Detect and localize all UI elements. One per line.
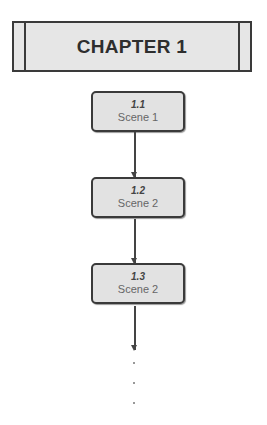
scene-node-1: 1.1 Scene 1 <box>91 91 185 132</box>
arrow-2-to-3 <box>134 219 136 263</box>
arrow-3-to-next <box>134 306 136 350</box>
scene-node-2: 1.2 Scene 2 <box>91 177 185 218</box>
chapter-header: CHAPTER 1 <box>12 21 252 72</box>
scene-node-3: 1.3 Scene 2 <box>91 263 185 304</box>
continuation-dot <box>133 402 135 404</box>
scene-number: 1.2 <box>131 185 145 197</box>
scene-label: Scene 2 <box>118 197 158 210</box>
scene-number: 1.3 <box>131 271 145 283</box>
continuation-dot <box>133 362 135 364</box>
continuation-dot <box>133 382 135 384</box>
chapter-title: CHAPTER 1 <box>14 23 250 70</box>
arrowhead-icon <box>131 345 137 351</box>
scene-number: 1.1 <box>131 99 145 111</box>
arrow-1-to-2 <box>134 132 136 177</box>
scene-label: Scene 2 <box>118 283 158 296</box>
scene-label: Scene 1 <box>118 111 158 124</box>
